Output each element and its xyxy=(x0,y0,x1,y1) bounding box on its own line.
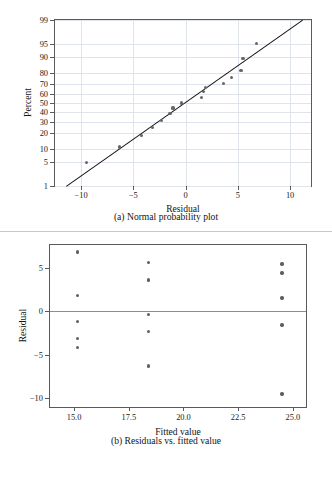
gridline-horizontal xyxy=(55,84,311,85)
data-point xyxy=(180,101,183,104)
x-tick-label: 22.5 xyxy=(231,413,246,422)
caption-b: (b) Residuals vs. fitted value xyxy=(0,435,332,446)
y-tick-label: 1 xyxy=(18,182,48,191)
gridline-horizontal xyxy=(55,112,311,113)
y-tick xyxy=(50,103,54,104)
gridline-horizontal xyxy=(55,186,311,187)
y-tick xyxy=(50,186,54,187)
y-tick-label: 10 xyxy=(18,144,48,153)
x-tick-label: 20.0 xyxy=(176,413,191,422)
gridline-horizontal xyxy=(55,73,311,74)
y-tick xyxy=(50,162,54,163)
y-tick xyxy=(50,84,54,85)
data-point xyxy=(85,161,88,164)
data-point xyxy=(147,364,150,367)
gridline-horizontal xyxy=(55,149,311,150)
gridline-horizontal xyxy=(55,162,311,163)
data-point xyxy=(280,262,283,265)
x-tick-label: 15.0 xyxy=(67,413,82,422)
x-tick-label: −5 xyxy=(129,191,138,200)
y-tick xyxy=(50,73,54,74)
data-point xyxy=(76,346,79,349)
x-tick-label: 10 xyxy=(286,191,294,200)
caption-a: (a) Normal probability plot xyxy=(0,211,332,222)
data-point xyxy=(151,126,154,129)
x-tick xyxy=(133,186,134,190)
y-tick xyxy=(45,398,49,399)
data-point xyxy=(147,330,150,333)
y-tick xyxy=(50,133,54,134)
data-point xyxy=(230,76,233,79)
y-tick xyxy=(50,44,54,45)
panel-divider xyxy=(0,231,332,232)
data-point xyxy=(168,112,171,115)
data-point xyxy=(202,90,205,93)
y-tick xyxy=(50,57,54,58)
x-tick-label: 0 xyxy=(184,191,188,200)
x-tick xyxy=(129,407,130,411)
panel-normal-probability-plot: 151020304050607080909599 −10−50510 Perce… xyxy=(0,0,332,232)
x-tick xyxy=(183,407,184,411)
x-tick xyxy=(81,186,82,190)
data-point xyxy=(280,296,283,299)
zero-reference-line xyxy=(50,311,306,312)
x-tick-label: 17.5 xyxy=(121,413,136,422)
y-tick-label: 5 xyxy=(13,263,43,272)
y-tick xyxy=(50,122,54,123)
data-point xyxy=(118,145,121,148)
gridline-horizontal xyxy=(55,94,311,95)
x-tick xyxy=(238,407,239,411)
x-tick-label: 5 xyxy=(236,191,240,200)
y-tick xyxy=(50,20,54,21)
data-point xyxy=(280,323,283,326)
y-tick xyxy=(45,355,49,356)
plot-area-a xyxy=(54,19,312,187)
y-tick-label: 99 xyxy=(18,16,48,25)
x-tick-label: −10 xyxy=(75,191,88,200)
x-tick-label: 25.0 xyxy=(286,413,301,422)
gridline-horizontal xyxy=(55,122,311,123)
data-point xyxy=(171,106,174,109)
y-tick-label: 5 xyxy=(18,157,48,166)
data-point xyxy=(280,271,283,274)
x-tick xyxy=(290,186,291,190)
data-point xyxy=(76,320,79,323)
y-tick-label: −10 xyxy=(13,394,43,403)
panel-residuals-vs-fitted: 50−5−10 15.017.520.022.525.0 Residual Fi… xyxy=(0,236,332,482)
x-tick xyxy=(186,186,187,190)
y-tick-label: 90 xyxy=(18,53,48,62)
gridline-horizontal xyxy=(55,57,311,58)
x-tick xyxy=(293,407,294,411)
y-axis-title-b: Residual xyxy=(17,291,28,361)
x-tick xyxy=(238,186,239,190)
plot-area-b xyxy=(49,244,307,408)
data-point xyxy=(147,313,150,316)
gridline-horizontal xyxy=(55,20,311,21)
data-point xyxy=(76,250,79,253)
y-tick-label: 95 xyxy=(18,40,48,49)
data-point xyxy=(239,69,242,72)
data-point xyxy=(76,294,79,297)
data-point xyxy=(147,261,150,264)
x-tick xyxy=(74,407,75,411)
data-point xyxy=(204,86,207,89)
y-tick xyxy=(50,112,54,113)
gridline-horizontal xyxy=(55,133,311,134)
y-tick xyxy=(45,268,49,269)
data-point xyxy=(280,392,283,395)
y-axis-title-a: Percent xyxy=(22,68,33,138)
data-point xyxy=(140,134,143,137)
y-tick xyxy=(45,311,49,312)
data-point xyxy=(147,278,150,281)
data-point xyxy=(241,57,244,60)
gridline-horizontal xyxy=(55,44,311,45)
data-point xyxy=(76,337,79,340)
data-point xyxy=(200,96,203,99)
y-tick xyxy=(50,94,54,95)
y-tick xyxy=(50,149,54,150)
